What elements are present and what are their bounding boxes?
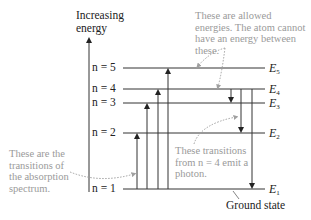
axis-title-line2: energy (76, 22, 124, 35)
energy-label-2: E2 (269, 127, 280, 141)
level-label-2: n = 2 (92, 127, 116, 139)
emission-note: These transitions from n = 4 emit a phot… (175, 145, 249, 180)
level-label-4: n = 4 (92, 83, 116, 95)
ground-state-pointer (233, 191, 239, 199)
level-label-1: n = 1 (92, 183, 116, 195)
level-label-3: n = 3 (92, 97, 116, 109)
allowed-energies-note: These are allowed energies. The atom can… (195, 10, 311, 56)
axis-title-line1: Increasing (76, 9, 124, 22)
energy-label-4: E4 (269, 83, 280, 97)
energy-label-5: E5 (269, 62, 280, 76)
level-label-5: n = 5 (92, 62, 116, 74)
energy-label-1: E1 (269, 183, 280, 197)
pointer-absorption (70, 172, 134, 179)
axis-title: Increasing energy (76, 9, 124, 34)
absorption-note: These are the transitions of the absorpt… (9, 148, 71, 194)
pointer-emission (194, 117, 236, 144)
energy-label-3: E3 (269, 97, 280, 111)
ground-state-label: Ground state (226, 200, 285, 212)
